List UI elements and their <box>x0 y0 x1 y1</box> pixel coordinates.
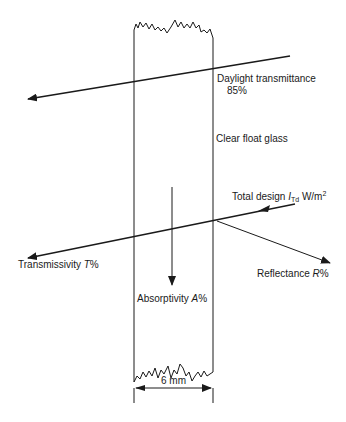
total-design-arrow <box>28 204 295 258</box>
glass-energy-diagram: Daylight transmittance 85% Clear float g… <box>0 0 346 422</box>
daylight-label: Daylight transmittance 85% <box>217 73 316 97</box>
absorptivity-label: Absorptivity A% <box>137 293 207 305</box>
reflectance-label: Reflectance R% <box>257 268 329 280</box>
glass-pane-outline <box>134 20 213 403</box>
glass-label: Clear float glass <box>216 133 288 145</box>
thickness-label: 6 mm <box>161 375 186 387</box>
total-design-label: Total design ITd W/m2 <box>232 188 326 206</box>
incoming-arrowhead <box>258 205 270 212</box>
transmissivity-label: Transmissivity T% <box>18 259 99 271</box>
diagram-lines <box>0 0 346 422</box>
reflectance-arrow <box>217 221 330 263</box>
